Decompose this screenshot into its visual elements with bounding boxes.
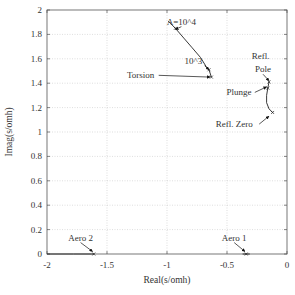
y-tick-label: 0.2 xyxy=(31,225,42,235)
annotation-arrow xyxy=(263,74,269,81)
annotation-label: Aero 2 xyxy=(68,233,93,243)
annotation-label: Refl. xyxy=(252,51,270,61)
annotation-label: Refl. Zero xyxy=(216,119,253,129)
y-tick-label: 1 xyxy=(38,127,43,137)
annotation-arrow xyxy=(234,243,245,252)
data-series xyxy=(47,21,273,254)
y-tick-label: 1.8 xyxy=(31,29,43,39)
grid-lines xyxy=(47,10,287,254)
x-tick-label: 0 xyxy=(285,260,290,270)
y-tick-label: 2 xyxy=(38,5,43,15)
annotation-label: Aero 1 xyxy=(222,233,247,243)
x-axis-label: Real(s/omh) xyxy=(144,275,191,286)
axis-ticks: -2-1.5-1-0.5000.20.40.60.811.21.41.61.82 xyxy=(31,5,290,270)
annotation-label: Torsion xyxy=(127,70,155,80)
x-tick-label: -0.5 xyxy=(220,260,235,270)
x-marker-icon xyxy=(271,111,274,114)
x-tick-label: -1.5 xyxy=(100,260,115,270)
annotation-label: 10^3 xyxy=(185,56,203,66)
annotation-label: A=10^4 xyxy=(167,17,197,27)
root-locus-chart: -2-1.5-1-0.5000.20.40.60.811.21.41.61.82… xyxy=(0,0,295,295)
annotation-label: Plunge xyxy=(226,87,251,97)
y-tick-label: 0 xyxy=(38,249,43,259)
y-axis-label: Imag(s/omh) xyxy=(4,107,15,156)
annotation-arrow xyxy=(205,66,209,70)
x-tick-label: -2 xyxy=(43,260,51,270)
series-line xyxy=(267,82,273,113)
annotation-arrow xyxy=(255,87,267,93)
x-tick-label: -1 xyxy=(163,260,171,270)
data-markers xyxy=(92,27,274,256)
annotation-arrow xyxy=(159,75,211,77)
y-tick-label: 1.4 xyxy=(31,78,43,88)
annotation-arrow xyxy=(81,243,93,252)
y-tick-label: 0.8 xyxy=(31,151,43,161)
y-tick-label: 0.4 xyxy=(31,200,43,210)
annotations: A=10^410^3TorsionRefl.PolePlungeRefl. Ze… xyxy=(68,17,271,252)
y-tick-label: 1.6 xyxy=(31,54,43,64)
annotation-label: Pole xyxy=(255,64,271,74)
y-tick-label: 1.2 xyxy=(31,103,42,113)
annotation-arrow xyxy=(259,116,269,124)
y-tick-label: 0.6 xyxy=(31,176,43,186)
